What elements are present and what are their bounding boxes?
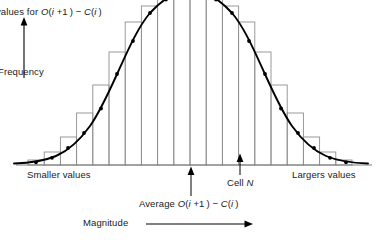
bar-13 — [222, 6, 238, 165]
curve-point — [230, 11, 234, 15]
curve-point — [99, 107, 103, 111]
chart-title-note: values for O(i +1 ) − C(i ) — [0, 6, 102, 17]
bar-11 — [190, 0, 206, 165]
curve-point — [312, 146, 316, 150]
magnitude-axis-arrow — [146, 221, 253, 228]
curve-point — [247, 39, 251, 43]
curve-point — [344, 160, 348, 164]
curve-point — [66, 146, 70, 150]
curve-point — [296, 131, 300, 135]
cell-n-label: Cell N — [227, 177, 253, 188]
smaller-values-label: Smaller values — [27, 169, 91, 180]
curve-point — [148, 11, 152, 15]
average-text: Average O(i +1 ) − C(i ) — [139, 198, 239, 209]
bar-10 — [174, 0, 190, 165]
curve-point — [328, 156, 332, 160]
curve-point — [131, 39, 135, 43]
bar-3 — [60, 137, 76, 165]
x-axis-label-text: Magnitude — [83, 217, 128, 228]
average-marker-arrow — [188, 167, 195, 197]
curve-point — [214, 0, 218, 1]
curve-point — [34, 160, 38, 164]
bar-12 — [206, 0, 222, 165]
y-axis-label-text: Frequency — [0, 66, 44, 77]
curve-point — [50, 156, 54, 160]
curve-point — [82, 131, 86, 135]
largers-values-label: Largers values — [292, 169, 356, 180]
bar-6 — [109, 52, 125, 165]
chart-title-note-text: values for O(i +1 ) − C(i ) — [0, 6, 102, 17]
x-axis-label: Magnitude — [83, 217, 128, 228]
curve-data-markers — [34, 0, 348, 164]
curve-point — [115, 72, 119, 76]
y-axis-label: Frequency — [0, 66, 44, 77]
smaller-values-text: Smaller values — [27, 169, 91, 180]
bar-7 — [125, 22, 141, 165]
average-label: Average O(i +1 ) − C(i ) — [139, 198, 239, 209]
bar-9 — [158, 0, 174, 165]
cell-n-marker-arrow — [237, 154, 244, 176]
figure-canvas: values for O(i +1 ) − C(i ) Frequency Sm… — [0, 0, 382, 240]
normal-curve — [14, 0, 368, 164]
bar-8 — [141, 6, 157, 165]
bar-16 — [271, 85, 287, 165]
curve-point — [263, 72, 267, 76]
bar-14 — [239, 22, 255, 165]
largers-values-text: Largers values — [292, 169, 356, 180]
cell-n-text: Cell N — [227, 177, 253, 188]
curve-point — [279, 107, 283, 111]
curve-point — [164, 0, 168, 1]
